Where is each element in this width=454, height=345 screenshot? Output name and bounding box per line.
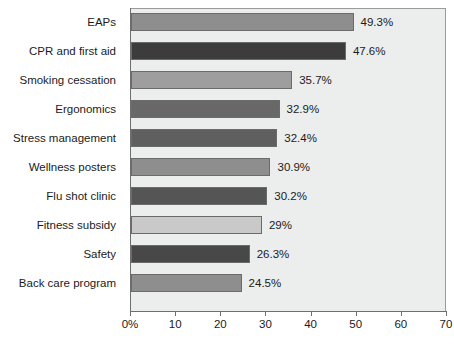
bar	[131, 100, 280, 118]
bar	[131, 187, 267, 205]
x-tick-label: 20	[214, 318, 227, 330]
category-label: Back care program	[0, 269, 122, 298]
category-label: Flu shot clinic	[0, 182, 122, 211]
bar-row: Back care program24.5%	[0, 269, 454, 298]
bar	[131, 42, 346, 60]
bar	[131, 71, 292, 89]
bar-row: Smoking cessation35.7%	[0, 66, 454, 95]
x-tick-label: 70	[440, 318, 453, 330]
bar-row: Ergonomics32.9%	[0, 95, 454, 124]
bar-value-label: 26.3%	[257, 240, 290, 269]
bar-value-label: 47.6%	[353, 37, 386, 66]
bar	[131, 158, 270, 176]
bar-value-label: 30.2%	[274, 182, 307, 211]
bar-row: EAPs49.3%	[0, 8, 454, 37]
bar-row: Fitness subsidy29%	[0, 211, 454, 240]
category-label: Ergonomics	[0, 95, 122, 124]
x-tick	[220, 311, 221, 316]
bar	[131, 245, 250, 263]
bar-row: CPR and first aid47.6%	[0, 37, 454, 66]
x-tick	[311, 311, 312, 316]
category-label: Wellness posters	[0, 153, 122, 182]
bar-value-label: 24.5%	[249, 269, 282, 298]
x-axis-line	[130, 311, 447, 312]
x-tick-label: 50	[349, 318, 362, 330]
bar-chart: EAPs49.3%CPR and first aid47.6%Smoking c…	[0, 0, 454, 345]
x-tick-label: 0%	[122, 318, 139, 330]
bar-row: Stress management32.4%	[0, 124, 454, 153]
bar-row: Safety26.3%	[0, 240, 454, 269]
category-label: Stress management	[0, 124, 122, 153]
x-tick-label: 40	[304, 318, 317, 330]
bar	[131, 13, 354, 31]
x-tick	[401, 311, 402, 316]
x-tick-label: 60	[394, 318, 407, 330]
x-tick	[175, 311, 176, 316]
x-tick	[130, 311, 131, 316]
bar-row: Flu shot clinic30.2%	[0, 182, 454, 211]
category-label: Safety	[0, 240, 122, 269]
bar-row: Wellness posters30.9%	[0, 153, 454, 182]
bar-value-label: 32.4%	[284, 124, 317, 153]
x-tick	[446, 311, 447, 316]
x-tick-label: 30	[259, 318, 272, 330]
bar-value-label: 29%	[269, 211, 292, 240]
bar-value-label: 30.9%	[277, 153, 310, 182]
bar	[131, 274, 242, 292]
category-label: Smoking cessation	[0, 66, 122, 95]
x-tick	[356, 311, 357, 316]
category-label: Fitness subsidy	[0, 211, 122, 240]
bar-value-label: 35.7%	[299, 66, 332, 95]
bar-value-label: 49.3%	[361, 8, 394, 37]
x-tick-label: 10	[169, 318, 182, 330]
category-label: EAPs	[0, 8, 122, 37]
bar	[131, 129, 277, 147]
bar	[131, 216, 262, 234]
x-tick	[265, 311, 266, 316]
category-label: CPR and first aid	[0, 37, 122, 66]
bar-value-label: 32.9%	[287, 95, 320, 124]
